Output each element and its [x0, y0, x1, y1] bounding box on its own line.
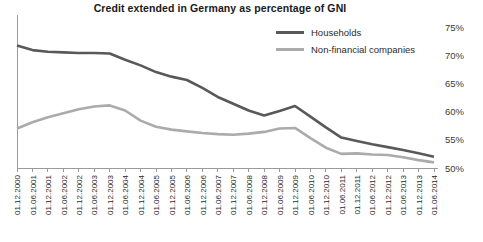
y-axis-tick-label: 60%: [445, 106, 465, 117]
x-axis-tick-label: 01.12.2011: [353, 174, 362, 214]
y-axis-tick-label: 50%: [445, 163, 465, 174]
series-line-non-financial-companies: [17, 105, 434, 162]
x-axis-tick-label: 01.12.2009: [291, 174, 300, 215]
x-axis-tick-label: 01.12.2007: [229, 174, 238, 215]
y-axis-tick-label: 55%: [445, 134, 465, 145]
x-axis-tick-label: 01.06.2011: [338, 174, 347, 214]
x-axis-tick-label: 01.12.2010: [322, 174, 331, 215]
x-axis-tick-label: 01.12.2001: [44, 174, 53, 215]
x-axis-tick-label: 01.06.2009: [276, 174, 285, 215]
x-axis-tick-label: 01.06.2005: [152, 174, 161, 215]
chart-series-group: [17, 46, 434, 163]
x-axis-tick-label: 01.06.2007: [214, 174, 223, 215]
chart-container: Credit extended in Germany as percentage…: [0, 0, 483, 242]
x-axis-tick-label: 01.12.2006: [199, 174, 208, 215]
x-axis-tick-label: 01.06.2002: [60, 174, 69, 215]
x-axis-tick-label: 01.06.2008: [245, 174, 254, 215]
x-axis-tick-label: 01.06.2013: [399, 174, 408, 215]
series-line-households: [17, 46, 434, 157]
x-axis-tick-label: 01.06.2012: [368, 174, 377, 215]
x-axis-tick-label: 01.12.2008: [260, 174, 269, 215]
x-axis-tick-label: 01.12.2005: [168, 174, 177, 215]
x-axis-tick-label: 01.12.2002: [75, 174, 84, 215]
y-axis: 50%55%60%65%70%75%: [445, 22, 465, 174]
x-axis-tick-label: 01.06.2014: [430, 174, 439, 215]
x-axis-tick-label: 01.12.2000: [13, 174, 22, 215]
x-axis-tick-label: 01.06.2010: [307, 174, 316, 215]
y-axis-tick-label: 75%: [445, 22, 465, 33]
x-axis: 01.12.200001.06.200101.12.200101.06.2002…: [13, 15, 439, 215]
x-axis-tick-label: 01.06.2003: [90, 174, 99, 215]
x-axis-tick-label: 01.12.2004: [137, 174, 146, 215]
x-axis-tick-label: 01.06.2004: [121, 174, 130, 215]
x-axis-tick-label: 01.12.2012: [384, 174, 393, 215]
x-axis-tick-label: 01.12.2013: [415, 174, 424, 215]
y-axis-tick-label: 70%: [445, 50, 465, 61]
chart-plot-area: 50%55%60%65%70%75% 01.12.200001.06.20010…: [0, 0, 483, 242]
x-axis-tick-label: 01.12.2003: [106, 174, 115, 215]
x-axis-tick-label: 01.06.2006: [183, 174, 192, 215]
y-axis-tick-label: 65%: [445, 78, 465, 89]
x-axis-tick-label: 01.06.2001: [29, 174, 38, 215]
